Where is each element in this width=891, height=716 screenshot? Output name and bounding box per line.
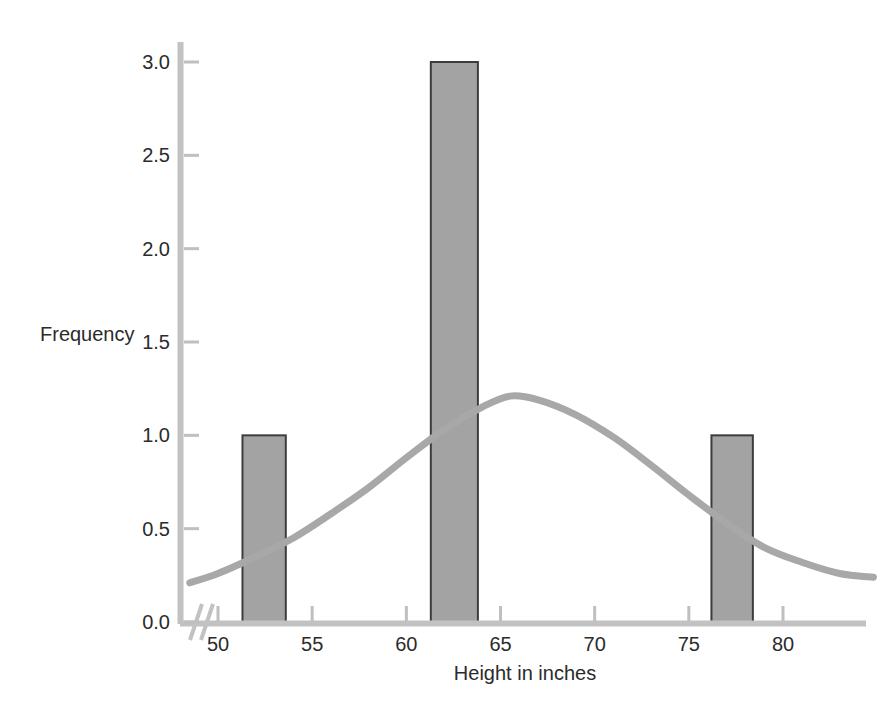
x-axis-tick-label: 55 bbox=[301, 633, 323, 655]
y-axis-title: Frequency bbox=[40, 323, 135, 345]
x-axis-tick-label: 70 bbox=[584, 633, 606, 655]
x-axis-tick-label: 65 bbox=[489, 633, 511, 655]
x-axis-tick-label: 50 bbox=[207, 633, 229, 655]
histogram-bar bbox=[431, 62, 478, 622]
y-axis-tick-label: 2.0 bbox=[142, 238, 170, 260]
y-axis-tick-label: 3.0 bbox=[142, 51, 170, 73]
y-axis-tick-label: 0.0 bbox=[142, 611, 170, 633]
y-axis-tick-label: 0.5 bbox=[142, 518, 170, 540]
x-axis-tick-label: 75 bbox=[678, 633, 700, 655]
chart-canvas: 0.00.51.01.52.02.53.0 50556065707580 Fre… bbox=[0, 0, 891, 716]
y-axis-tick-label: 1.0 bbox=[142, 424, 170, 446]
histogram-bar bbox=[242, 435, 285, 622]
x-axis-tick-label: 80 bbox=[772, 633, 794, 655]
x-axis-title: Height in inches bbox=[454, 662, 596, 684]
y-axis-tick-label: 1.5 bbox=[142, 331, 170, 353]
x-axis-tick-label: 60 bbox=[395, 633, 417, 655]
y-axis-tick-label: 2.5 bbox=[142, 144, 170, 166]
histogram-chart: 0.00.51.01.52.02.53.0 50556065707580 Fre… bbox=[0, 0, 891, 716]
